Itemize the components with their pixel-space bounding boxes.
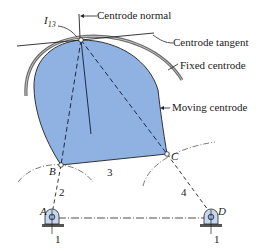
centrode-normal-line (79, 14, 80, 38)
four-bar-centrode-diagram: I13 Centrode normal Centrode tangent Fix… (0, 0, 257, 251)
label-joint-c: C (171, 150, 179, 162)
label-link-2: 2 (59, 186, 65, 198)
label-joint-b: B (49, 165, 56, 177)
label-centrode-normal: Centrode normal (97, 9, 171, 21)
link-4-rocker (167, 154, 211, 214)
label-instant-center: I13 (43, 14, 56, 29)
label-link-1-right: 1 (214, 233, 220, 245)
label-link-3: 3 (107, 166, 113, 178)
label-link-4: 4 (181, 186, 187, 198)
joint-b (59, 163, 64, 168)
joint-c (165, 152, 170, 157)
label-joint-a: A (39, 205, 47, 217)
moving-centrode-shape (34, 40, 167, 165)
label-link-1-left: 1 (55, 233, 61, 245)
label-joint-d: D (217, 205, 226, 217)
label-centrode-tangent: Centrode tangent (173, 36, 248, 48)
label-moving-centrode: Moving centrode (172, 101, 248, 113)
label-fixed-centrode: Fixed centrode (180, 59, 246, 71)
instant-center-i13-point (79, 38, 84, 43)
